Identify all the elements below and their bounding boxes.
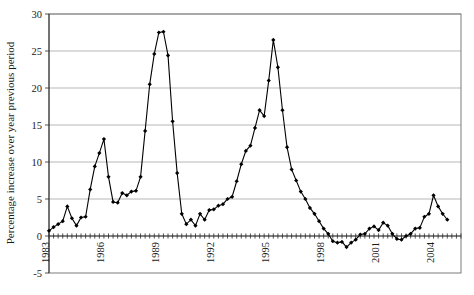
y-axis-title: Percentage increase over year previous p… — [4, 41, 16, 244]
y-tick-label: 0 — [37, 231, 42, 242]
x-tick-label: 1989 — [150, 242, 161, 263]
y-tick-label: -5 — [33, 268, 42, 279]
y-tick-label: 15 — [32, 120, 43, 131]
y-tick-label: 5 — [37, 194, 42, 205]
y-tick-label: 10 — [32, 157, 43, 168]
y-tick-label: 25 — [32, 46, 43, 57]
x-tick-label: 1983 — [40, 242, 51, 263]
chart-container: -5051015202530 1983198619891992199519982… — [0, 0, 474, 295]
x-tick-label: 1992 — [205, 242, 216, 263]
x-tick-label: 2004 — [425, 241, 436, 263]
x-tick-label: 1998 — [315, 242, 326, 263]
x-tick-label: 2001 — [370, 242, 381, 263]
line-chart: -5051015202530 1983198619891992199519982… — [0, 0, 474, 295]
x-tick-label: 1986 — [95, 242, 106, 263]
y-axis-ticks: -5051015202530 — [32, 9, 50, 279]
y-tick-label: 30 — [32, 9, 43, 20]
y-tick-label: 20 — [32, 83, 43, 94]
x-tick-label: 1995 — [260, 242, 271, 263]
